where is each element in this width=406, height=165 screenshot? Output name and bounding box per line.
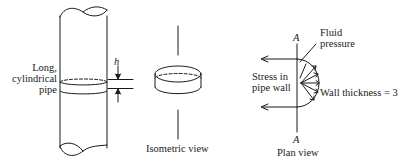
pipe-label-line3: pipe bbox=[2, 84, 57, 95]
diagram-drawing bbox=[0, 0, 406, 165]
height-symbol: h bbox=[114, 56, 119, 67]
stress-label-line1: Stress in bbox=[252, 71, 288, 82]
wall-thickness-label: Wall thickness = 3 bbox=[320, 87, 398, 98]
cylindrical-pipe bbox=[60, 7, 107, 156]
section-label-top: A bbox=[293, 32, 299, 43]
fluid-pressure-label-line1: Fluid bbox=[320, 27, 342, 38]
plan-view-caption: Plan view bbox=[277, 147, 319, 158]
height-dimension bbox=[108, 66, 133, 102]
isometric-view-caption: Isometric view bbox=[146, 143, 209, 154]
pipe-label-line1: Long, bbox=[2, 62, 57, 73]
pipe-stress-diagram: Long, cylindrical pipe h Isometric view … bbox=[0, 0, 406, 165]
section-label-bottom: A bbox=[293, 134, 299, 145]
isometric-disk bbox=[155, 26, 201, 139]
stress-label-line2: pipe wall bbox=[252, 82, 291, 93]
pipe-label-line2: cylindrical bbox=[2, 73, 57, 84]
fluid-pressure-label-line2: pressure bbox=[320, 38, 355, 49]
